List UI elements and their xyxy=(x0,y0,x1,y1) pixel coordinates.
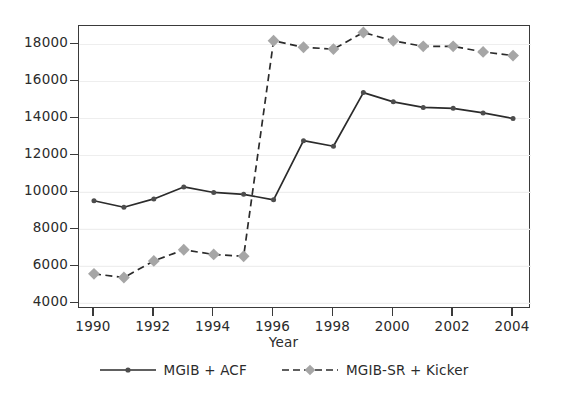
chart-legend: MGIB + ACF MGIB-SR + Kicker xyxy=(0,362,567,378)
plot-area xyxy=(78,25,530,308)
y-tick-mark xyxy=(70,154,78,156)
y-tick-mark xyxy=(70,302,78,304)
y-tick-mark xyxy=(70,191,78,193)
data-point xyxy=(451,106,456,111)
x-tick-mark xyxy=(272,308,274,316)
data-point xyxy=(151,196,156,201)
x-tick-mark xyxy=(152,308,154,316)
x-tick-label: 1990 xyxy=(75,320,110,334)
x-tick-mark xyxy=(511,308,513,316)
legend-entry-mgib-sr-kicker: MGIB-SR + Kicker xyxy=(281,362,469,378)
data-point xyxy=(271,197,276,202)
data-point xyxy=(507,50,519,62)
x-tick-label: 2002 xyxy=(435,320,470,334)
legend-label-mgib-acf: MGIB + ACF xyxy=(164,362,247,378)
data-point xyxy=(211,190,216,195)
data-point xyxy=(181,184,186,189)
y-tick-label: 10000 xyxy=(24,184,68,198)
x-axis-title: Year xyxy=(0,334,567,350)
y-tick-label: 18000 xyxy=(24,36,68,50)
data-point xyxy=(118,272,130,284)
x-tick-mark xyxy=(212,308,214,316)
x-tick-label: 1992 xyxy=(135,320,170,334)
y-tick-label: 6000 xyxy=(33,258,68,272)
data-point xyxy=(511,116,516,121)
legend-swatch-dashed-diamond xyxy=(281,363,339,377)
data-point xyxy=(88,268,100,280)
x-tick-mark xyxy=(332,308,334,316)
y-tick-label: 4000 xyxy=(33,295,68,309)
x-tick-label: 2004 xyxy=(494,320,529,334)
y-tick-mark xyxy=(70,80,78,82)
x-tick-mark xyxy=(92,308,94,316)
y-tick-mark xyxy=(70,43,78,45)
y-tick-label: 16000 xyxy=(24,73,68,87)
gridlines xyxy=(79,45,531,304)
data-point xyxy=(357,27,369,39)
data-point xyxy=(421,105,426,110)
legend-swatch-solid-circle xyxy=(99,363,157,377)
legend-entry-mgib-acf: MGIB + ACF xyxy=(99,362,247,378)
y-tick-label: 12000 xyxy=(24,147,68,161)
data-point xyxy=(477,46,489,58)
data-point xyxy=(301,138,306,143)
x-tick-mark xyxy=(451,308,453,316)
legend-label-mgib-sr-kicker: MGIB-SR + Kicker xyxy=(346,362,469,378)
chart-canvas xyxy=(79,26,531,309)
chart-figure: 4000600080001000012000140001600018000 Ye… xyxy=(0,0,567,397)
data-point xyxy=(391,99,396,104)
data-point xyxy=(208,248,220,260)
data-point xyxy=(361,90,366,95)
data-point xyxy=(298,41,310,53)
data-point xyxy=(91,198,96,203)
y-tick-label: 14000 xyxy=(24,110,68,124)
y-tick-label: 8000 xyxy=(33,221,68,235)
x-tick-label: 1998 xyxy=(315,320,350,334)
data-point xyxy=(447,40,459,52)
y-tick-mark xyxy=(70,117,78,119)
data-point xyxy=(178,244,190,256)
data-point xyxy=(238,250,250,262)
x-tick-label: 1994 xyxy=(195,320,230,334)
x-tick-mark xyxy=(392,308,394,316)
data-point xyxy=(121,205,126,210)
data-point xyxy=(417,40,429,52)
data-point xyxy=(331,144,336,149)
data-point xyxy=(148,255,160,267)
series-line-0 xyxy=(94,93,513,208)
y-tick-mark xyxy=(70,265,78,267)
x-tick-label: 1996 xyxy=(255,320,290,334)
y-tick-mark xyxy=(70,228,78,230)
x-tick-label: 2000 xyxy=(375,320,410,334)
data-point xyxy=(241,192,246,197)
data-point xyxy=(481,110,486,115)
